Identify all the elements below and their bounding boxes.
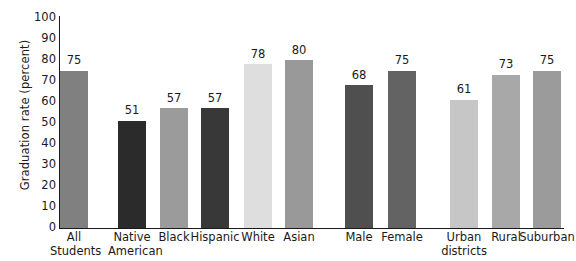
bar-value-label: 75: [395, 55, 410, 67]
y-tick-label: 30: [18, 159, 56, 171]
y-tick-label: 70: [18, 75, 56, 87]
bar: 51: [118, 18, 146, 228]
y-tick-label: 60: [18, 96, 56, 108]
x-label-line-2: American: [108, 246, 156, 258]
bar-value-label: 78: [251, 49, 266, 61]
bar: 73: [492, 18, 520, 228]
x-axis-category-label: Suburban: [518, 232, 576, 244]
bar-value-label: 51: [125, 105, 140, 117]
x-axis-category-label: NativeAmerican: [108, 232, 156, 257]
x-label-line-1: Suburban: [518, 232, 576, 244]
bar: 68: [345, 18, 373, 228]
y-tick-label: 40: [18, 138, 56, 150]
x-axis-category-label: AllStudents: [50, 232, 98, 257]
y-tick-label: 100: [18, 12, 56, 24]
bar-rect: [345, 85, 373, 228]
bar-value-label: 57: [167, 93, 182, 105]
bar: 57: [201, 18, 229, 228]
x-axis-category-label: Female: [376, 232, 428, 244]
bar-rect: [118, 121, 146, 228]
bar-value-label: 75: [540, 55, 555, 67]
bar-value-label: 61: [457, 84, 472, 96]
bar: 61: [450, 18, 478, 228]
x-label-line-2: districts: [438, 246, 490, 258]
bar-value-label: 73: [499, 59, 514, 71]
bar-rect: [388, 71, 416, 229]
x-axis-category-label: Asian: [275, 232, 323, 244]
y-axis-tick-labels: 1009080706050403020100: [12, 0, 56, 261]
y-tick-label: 20: [18, 180, 56, 192]
bar-value-label: 75: [67, 55, 82, 67]
bar-rect: [201, 108, 229, 228]
x-label-line-1: Female: [376, 232, 428, 244]
x-label-line-2: Students: [50, 246, 98, 258]
x-label-line-1: Native: [108, 232, 156, 244]
y-tick-label: 80: [18, 54, 56, 66]
bar-value-label: 57: [208, 93, 223, 105]
x-label-line-1: Asian: [275, 232, 323, 244]
bar-rect: [492, 75, 520, 228]
bar-rect: [244, 64, 272, 228]
bar-rect: [60, 71, 88, 229]
x-label-line-1: All: [50, 232, 98, 244]
bar: 75: [533, 18, 561, 228]
y-tick-label: 50: [18, 117, 56, 129]
bar-rect: [533, 71, 561, 229]
bar-rect: [160, 108, 188, 228]
bar-value-label: 68: [352, 70, 367, 82]
bar: 57: [160, 18, 188, 228]
bar: 75: [388, 18, 416, 228]
bar-rect: [450, 100, 478, 228]
y-tick-label: 90: [18, 33, 56, 45]
bar: 78: [244, 18, 272, 228]
bar-rect: [285, 60, 313, 228]
bar-value-label: 80: [292, 45, 307, 57]
bar: 80: [285, 18, 313, 228]
bar: 75: [60, 18, 88, 228]
y-tick-label: 10: [18, 201, 56, 213]
